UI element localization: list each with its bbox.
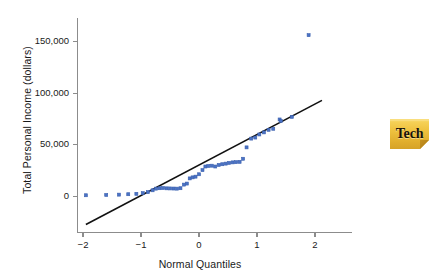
- scatter-point: [175, 187, 178, 190]
- scatter-point: [254, 136, 257, 139]
- scatter-point: [169, 187, 172, 190]
- scatter-point: [272, 127, 275, 130]
- tech-badge-label: Tech: [390, 119, 429, 149]
- scatter-point: [141, 192, 144, 195]
- scatter-point: [290, 115, 293, 118]
- scatter-point: [127, 193, 130, 196]
- scatter-point: [146, 191, 149, 194]
- scatter-point: [117, 193, 120, 196]
- y-tick-label: 100,000: [8, 87, 69, 98]
- scatter-point: [162, 187, 165, 190]
- scatter-point: [158, 187, 161, 190]
- scatter-point: [210, 164, 213, 167]
- scatter-point: [224, 162, 227, 165]
- scatter-point: [198, 173, 201, 176]
- scatter-point: [201, 169, 204, 172]
- scatter-point: [279, 120, 282, 123]
- x-axis-label: Normal Quantiles: [120, 258, 280, 270]
- y-tick-label: 50,000: [8, 138, 69, 149]
- chart-page: Total Personal Income (dollars) Normal Q…: [0, 0, 444, 280]
- scatter-point: [238, 160, 241, 163]
- x-tick-label: 0: [179, 239, 219, 250]
- scatter-point: [214, 165, 217, 168]
- scatter-point: [221, 163, 224, 166]
- scatter-point: [204, 165, 207, 168]
- scatter-point: [155, 187, 158, 190]
- scatter-point: [179, 187, 182, 190]
- tech-badge[interactable]: Tech: [390, 119, 429, 149]
- scatter-point: [258, 133, 261, 136]
- x-tick-label: 2: [295, 239, 335, 250]
- x-tick-label: −1: [121, 239, 161, 250]
- y-axis-label: Total Personal Income (dollars): [21, 40, 33, 200]
- scatter-point: [231, 161, 234, 164]
- axis-ticks: [73, 41, 315, 237]
- scatter-point: [84, 194, 87, 197]
- scatter-point: [228, 161, 231, 164]
- x-tick-label: 1: [237, 239, 277, 250]
- x-tick-label: −2: [63, 239, 103, 250]
- scatter-point: [172, 187, 175, 190]
- scatter-point: [307, 34, 310, 37]
- scatter-point: [217, 163, 220, 166]
- scatter-point: [165, 187, 168, 190]
- scatter-point: [242, 157, 245, 160]
- normal-reference-line: [86, 100, 322, 224]
- scatter-point: [245, 146, 248, 149]
- qq-plot-figure: Total Personal Income (dollars) Normal Q…: [0, 0, 360, 280]
- scatter-point: [188, 177, 191, 180]
- scatter-point: [262, 131, 265, 134]
- scatter-point: [105, 193, 108, 196]
- scatter-point: [235, 161, 238, 164]
- scatter-points: [84, 34, 310, 197]
- scatter-point: [267, 128, 270, 131]
- y-tick-label: 150,000: [8, 35, 69, 46]
- scatter-point: [185, 182, 188, 185]
- scatter-point: [182, 183, 185, 186]
- scatter-point: [135, 192, 138, 195]
- scatter-point: [250, 137, 253, 140]
- scatter-point: [194, 175, 197, 178]
- axes-group: [78, 18, 353, 233]
- scatter-point: [207, 164, 210, 167]
- scatter-point: [151, 189, 154, 192]
- y-tick-label: 0: [8, 190, 69, 201]
- scatter-point: [191, 176, 194, 179]
